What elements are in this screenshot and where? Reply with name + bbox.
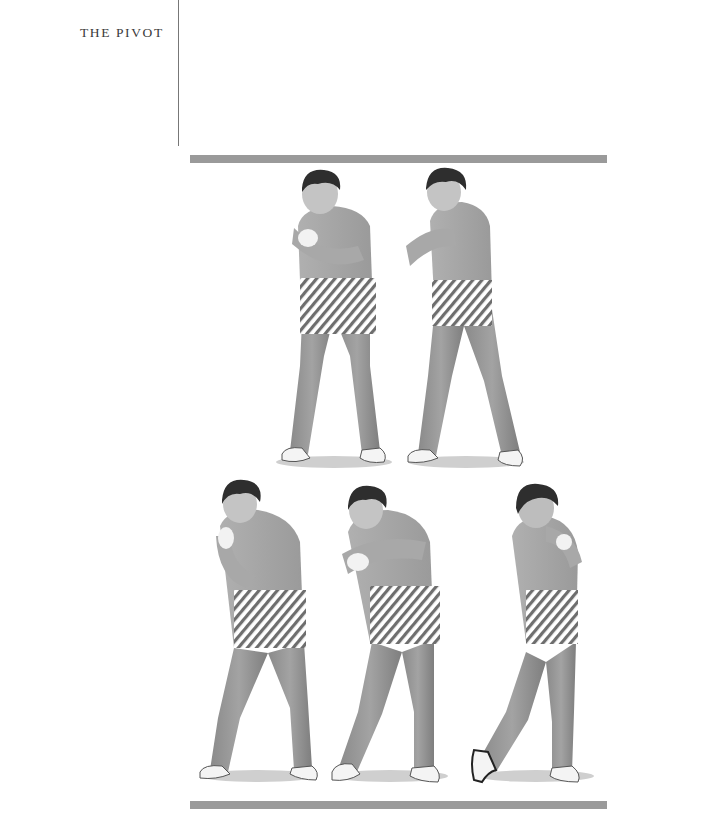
bottom-rule-bar [190, 801, 607, 809]
top-rule-bar [190, 155, 607, 163]
golfer-figure-4 [330, 482, 455, 788]
golfer-figure-1 [272, 166, 397, 476]
vertical-rule [178, 0, 179, 146]
golfer-figure-2 [402, 166, 527, 476]
golfer-figure-3 [196, 478, 321, 788]
running-head: THE PIVOT [80, 25, 164, 41]
golfer-figure-5 [466, 482, 596, 788]
